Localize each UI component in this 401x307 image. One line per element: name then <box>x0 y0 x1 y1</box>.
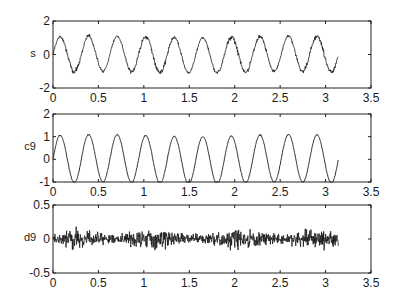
x-tick-label: 1.5 <box>181 185 198 199</box>
y-tick-label: -2 <box>39 81 50 95</box>
x-tick-label: 1.5 <box>181 276 198 290</box>
y-axis-label: s <box>30 47 36 59</box>
x-tick-label: 3.5 <box>363 276 380 290</box>
panel-d9: 00.511.522.533.50.50-0.5d9 <box>24 198 380 290</box>
y-tick-label: 1 <box>43 130 50 144</box>
x-tick-label: 2 <box>231 185 238 199</box>
series-line-d9 <box>53 227 338 251</box>
x-tick-label: 0 <box>50 91 57 105</box>
y-tick-label: 0 <box>43 152 50 166</box>
x-tick-label: 2.5 <box>272 185 289 199</box>
x-tick-label: 1 <box>141 185 148 199</box>
y-tick-label: 0 <box>43 48 50 62</box>
y-axis-label: c9 <box>24 140 36 152</box>
x-tick-label: 0.5 <box>90 185 107 199</box>
x-tick-label: 0.5 <box>90 276 107 290</box>
y-tick-label: 0 <box>43 232 50 246</box>
axes-box <box>53 21 371 88</box>
x-tick-label: 3 <box>322 185 329 199</box>
x-tick-label: 2.5 <box>272 276 289 290</box>
x-tick-label: 1 <box>141 276 148 290</box>
x-tick-label: 2 <box>231 276 238 290</box>
x-tick-label: 1.5 <box>181 91 198 105</box>
y-tick-label: 0.5 <box>33 198 50 212</box>
y-axis-label: d9 <box>24 231 36 243</box>
y-tick-label: -0.5 <box>29 266 50 280</box>
x-tick-label: 0 <box>50 185 57 199</box>
figure: 00.511.522.533.520-2s 00.511.522.533.521… <box>0 0 401 307</box>
series-line-s <box>53 34 338 73</box>
x-tick-label: 0.5 <box>90 91 107 105</box>
x-tick-label: 3.5 <box>363 91 380 105</box>
panel-c9: 00.511.522.533.5210-1c9 <box>24 107 379 199</box>
y-tick-label: -1 <box>39 175 50 189</box>
x-tick-label: 1 <box>141 91 148 105</box>
x-tick-label: 3.5 <box>363 185 380 199</box>
x-tick-label: 3 <box>322 276 329 290</box>
x-tick-label: 0 <box>50 276 57 290</box>
y-tick-label: 2 <box>43 14 50 28</box>
x-tick-label: 3 <box>322 91 329 105</box>
panel-s: 00.511.522.533.520-2s <box>30 14 379 105</box>
y-tick-label: 2 <box>43 107 50 121</box>
x-tick-label: 2.5 <box>272 91 289 105</box>
series-line-c9 <box>53 134 338 182</box>
x-tick-label: 2 <box>231 91 238 105</box>
